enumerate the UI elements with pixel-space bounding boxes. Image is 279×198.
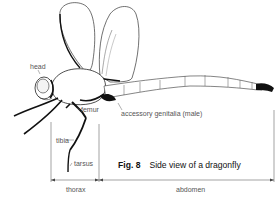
label-head: head [30,63,46,70]
forewing [60,3,95,72]
label-accessory-genitalia: accessory genitalia (male) [121,110,202,117]
figure-number: Fig. 8 [118,160,140,170]
label-thorax: thorax [66,186,85,193]
foreleg [14,98,58,116]
dragonfly-diagram: head femur tibia tarsus accessory genita… [0,0,279,198]
foreleg-2 [24,100,62,134]
figure-title: Side view of a dragonfly [149,160,240,170]
thorax-body [52,69,106,105]
label-abdomen: abdomen [176,186,205,193]
hindleg-tibia [70,118,86,150]
hindleg-tarsus [68,150,70,172]
hindwing-vein-2 [106,34,116,76]
figure-caption: Fig. 8Side view of a dragonfly [118,160,241,170]
compound-eye [37,79,49,93]
forewing-costa [60,14,80,68]
label-tarsus: tarsus [74,160,93,167]
midleg [66,104,70,108]
anal-appendages [256,83,274,92]
label-femur: femur [81,106,99,113]
hindwing [99,7,139,83]
abdomen-shape [104,76,262,98]
label-tibia: tibia [56,137,69,144]
